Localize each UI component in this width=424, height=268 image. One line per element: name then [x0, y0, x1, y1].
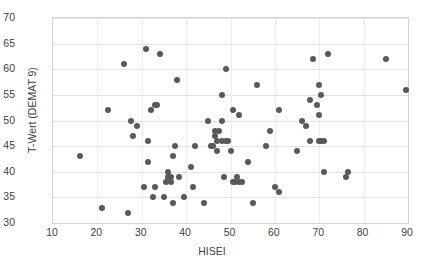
data-point — [403, 87, 409, 93]
data-point — [150, 194, 156, 200]
x-axis-tick-label: 90 — [392, 226, 422, 238]
data-point — [201, 200, 207, 206]
data-point — [168, 174, 174, 180]
data-point — [105, 107, 111, 113]
y-axis-tick-label: 45 — [0, 140, 15, 150]
data-point — [170, 153, 176, 159]
data-point — [383, 56, 389, 62]
gridline-vertical — [319, 18, 320, 223]
data-point — [174, 77, 180, 83]
gridline-vertical — [231, 18, 232, 223]
data-point — [99, 205, 105, 211]
x-axis-tick-label: 10 — [37, 226, 67, 238]
data-point — [128, 118, 134, 124]
data-point — [205, 118, 211, 124]
data-point — [267, 128, 273, 134]
data-point — [343, 174, 349, 180]
data-point — [294, 148, 300, 154]
data-point — [219, 118, 225, 124]
data-point — [130, 133, 136, 139]
data-point — [316, 112, 322, 118]
data-point — [125, 210, 131, 216]
data-point — [321, 138, 327, 144]
x-axis-tick-label: 60 — [259, 226, 289, 238]
x-axis-tick-label: 30 — [126, 226, 156, 238]
y-axis-tick-label: 65 — [0, 38, 15, 48]
data-point — [145, 159, 151, 165]
data-point — [325, 51, 331, 57]
data-point — [154, 102, 160, 108]
data-point — [221, 174, 227, 180]
gridline-vertical — [364, 18, 365, 223]
gridline-vertical — [97, 18, 98, 223]
x-axis-tick-label: 80 — [348, 226, 378, 238]
data-point — [141, 184, 147, 190]
data-point — [121, 61, 127, 67]
data-point — [152, 184, 158, 190]
data-point — [192, 143, 198, 149]
y-axis-tick-label: 40 — [0, 166, 15, 176]
data-point — [250, 200, 256, 206]
data-point — [145, 138, 151, 144]
y-axis-tick-label: 30 — [0, 217, 15, 227]
data-point — [236, 112, 242, 118]
data-point — [148, 107, 154, 113]
data-point — [303, 123, 309, 129]
y-axis-tick-label: 50 — [0, 115, 15, 125]
data-point — [223, 66, 229, 72]
data-point — [176, 174, 182, 180]
data-point — [321, 169, 327, 175]
y-axis-tick-label: 55 — [0, 89, 15, 99]
data-point — [316, 82, 322, 88]
data-point — [216, 128, 222, 134]
data-point — [239, 179, 245, 185]
y-axis-label: T-Wert (DEMAT 9) — [26, 30, 38, 190]
data-point — [276, 189, 282, 195]
scatter-chart: T-Wert (DEMAT 9) HISEI 30354045505560657… — [0, 0, 424, 268]
data-point — [276, 107, 282, 113]
x-axis-tick-label: 70 — [303, 226, 333, 238]
x-axis-label: HISEI — [0, 245, 424, 257]
y-axis-tick-label: 70 — [0, 12, 15, 22]
data-point — [214, 148, 220, 154]
data-point — [161, 194, 167, 200]
y-axis-tick-label: 60 — [0, 63, 15, 73]
gridline-vertical — [186, 18, 187, 223]
data-point — [157, 51, 163, 57]
data-point — [307, 138, 313, 144]
data-point — [170, 200, 176, 206]
data-point — [219, 92, 225, 98]
data-point — [263, 143, 269, 149]
data-point — [172, 143, 178, 149]
data-point — [318, 92, 324, 98]
data-point — [143, 46, 149, 52]
data-point — [190, 184, 196, 190]
data-point — [307, 97, 313, 103]
x-axis-tick-label: 20 — [81, 226, 111, 238]
x-axis-tick-label: 50 — [215, 226, 245, 238]
data-point — [254, 82, 260, 88]
y-axis-tick-label: 35 — [0, 191, 15, 201]
data-point — [168, 179, 174, 185]
data-point — [230, 107, 236, 113]
data-point — [228, 148, 234, 154]
x-axis-tick-label: 40 — [170, 226, 200, 238]
data-point — [134, 123, 140, 129]
data-point — [245, 159, 251, 165]
data-point — [345, 169, 351, 175]
data-point — [77, 153, 83, 159]
data-point — [310, 56, 316, 62]
data-point — [188, 164, 194, 170]
plot-area — [52, 17, 409, 224]
